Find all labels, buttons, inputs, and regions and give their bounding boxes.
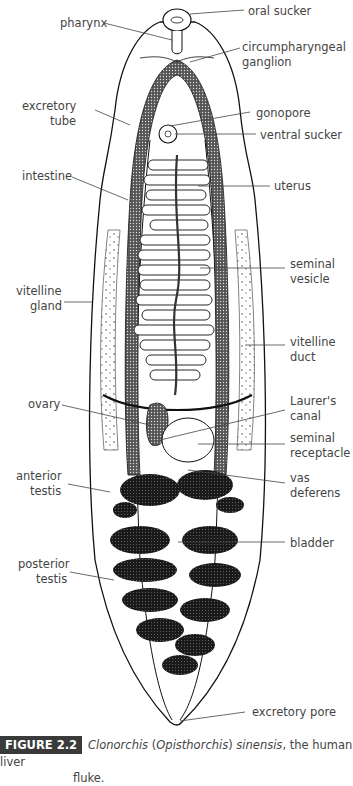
label-posterior-testis-2: testis <box>36 572 67 586</box>
label-oral-sucker: oral sucker <box>248 4 312 18</box>
figure-number-badge: FIGURE 2.2 <box>0 736 82 754</box>
label-seminal-vesicle-2: vesicle <box>290 272 330 286</box>
label-vitelline-gland-2: gland <box>30 299 62 313</box>
ventral-sucker <box>159 125 177 143</box>
pharynx <box>172 31 182 54</box>
label-tube: tube <box>50 114 76 128</box>
label-seminal-receptacle-1: seminal <box>290 431 335 445</box>
label-circumpharyngeal: circumpharyngeal <box>242 40 346 54</box>
uterus <box>134 160 214 380</box>
label-ovary: ovary <box>28 397 61 411</box>
label-vas-deferens-2: deferens <box>290 486 340 500</box>
label-intestine: intestine <box>22 169 72 183</box>
label-posterior-testis-1: posterior <box>18 557 70 571</box>
label-vas-deferens-1: vas <box>290 471 310 485</box>
caption-line-1: FIGURE 2.2Clonorchis (Opisthorchis) sine… <box>0 736 353 770</box>
label-excretory: excretory <box>22 99 77 113</box>
label-anterior-testis-1: anterior <box>16 469 62 483</box>
figure-caption: FIGURE 2.2Clonorchis (Opisthorchis) sine… <box>0 736 353 786</box>
caption-line-2: fluke. <box>0 770 353 786</box>
caption-part: Opisthorchis <box>156 738 228 752</box>
label-seminal-receptacle-2: receptacle <box>290 446 350 460</box>
label-ganglion: ganglion <box>242 55 292 69</box>
label-laurers-canal-1: Laurer's <box>290 394 336 408</box>
caption-part: sinensis <box>236 738 282 752</box>
label-ventral-sucker: ventral sucker <box>260 128 342 142</box>
label-anterior-testis-2: testis <box>30 484 61 498</box>
caption-part: Clonorchis <box>88 738 148 752</box>
label-bladder: bladder <box>290 536 334 550</box>
label-seminal-vesicle-1: seminal <box>290 257 335 271</box>
label-uterus: uterus <box>274 179 311 193</box>
label-vitelline-gland-1: vitelline <box>16 284 62 298</box>
label-pharynx: pharynx <box>60 16 107 30</box>
label-vitelline-duct-1: vitelline <box>290 335 336 349</box>
label-gonopore: gonopore <box>256 106 311 120</box>
seminal-receptacle <box>162 418 214 462</box>
label-excretory-pore: excretory pore <box>252 705 336 719</box>
label-laurers-canal-2: canal <box>290 409 321 423</box>
label-vitelline-duct-2: duct <box>290 350 316 364</box>
